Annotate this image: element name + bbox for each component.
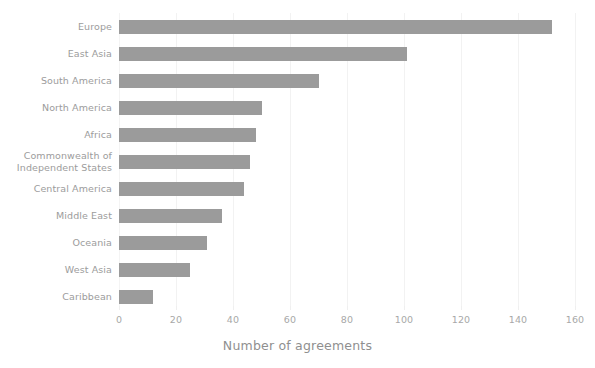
- category-label: Oceania: [0, 229, 112, 256]
- category-axis-labels: EuropeEast AsiaSouth AmericaNorth Americ…: [0, 13, 112, 310]
- x-tick-label: 0: [116, 314, 122, 325]
- x-tick-mark-40: [233, 306, 234, 310]
- category-label: Europe: [0, 13, 112, 40]
- category-label: West Asia: [0, 256, 112, 283]
- x-tick-mark-20: [176, 306, 177, 310]
- x-tick-mark-60: [290, 306, 291, 310]
- bar-chart: EuropeEast AsiaSouth AmericaNorth Americ…: [0, 0, 595, 368]
- x-tick-label: 80: [341, 314, 354, 325]
- bar-row[interactable]: [119, 121, 575, 148]
- bar-row[interactable]: [119, 229, 575, 256]
- bar[interactable]: [119, 47, 407, 61]
- bar[interactable]: [119, 155, 250, 169]
- bar-row[interactable]: [119, 175, 575, 202]
- bar-row[interactable]: [119, 67, 575, 94]
- bar[interactable]: [119, 20, 552, 34]
- bar[interactable]: [119, 128, 256, 142]
- bar[interactable]: [119, 101, 262, 115]
- x-tick-mark-100: [404, 306, 405, 310]
- bar-series: [119, 13, 575, 310]
- bar[interactable]: [119, 263, 190, 277]
- bar[interactable]: [119, 209, 222, 223]
- bar-row[interactable]: [119, 94, 575, 121]
- x-tick-mark-120: [461, 306, 462, 310]
- category-label: Commonwealth of Independent States: [0, 148, 112, 175]
- x-axis-title: Number of agreements: [0, 338, 595, 353]
- category-label: Middle East: [0, 202, 112, 229]
- x-tick-mark-80: [347, 306, 348, 310]
- x-tick-label: 140: [509, 314, 528, 325]
- bar-row[interactable]: [119, 256, 575, 283]
- x-axis: 020406080100120140160: [119, 310, 575, 332]
- bar[interactable]: [119, 182, 244, 196]
- x-tick-mark-0: [119, 306, 120, 310]
- bar-row[interactable]: [119, 40, 575, 67]
- category-label: South America: [0, 67, 112, 94]
- category-label: Caribbean: [0, 283, 112, 310]
- bar[interactable]: [119, 236, 207, 250]
- category-label: Africa: [0, 121, 112, 148]
- x-tick-label: 40: [227, 314, 240, 325]
- x-tick-label: 60: [284, 314, 297, 325]
- plot-area: [119, 13, 575, 310]
- x-tick-mark-160: [575, 306, 576, 310]
- bar-row[interactable]: [119, 148, 575, 175]
- x-tick-label: 120: [452, 314, 471, 325]
- x-tick-mark-140: [518, 306, 519, 310]
- bar-row[interactable]: [119, 202, 575, 229]
- category-label: Central America: [0, 175, 112, 202]
- bar-row[interactable]: [119, 13, 575, 40]
- category-label: North America: [0, 94, 112, 121]
- bar[interactable]: [119, 74, 319, 88]
- x-tick-label: 160: [566, 314, 585, 325]
- x-tick-label: 100: [395, 314, 414, 325]
- x-tick-label: 20: [170, 314, 183, 325]
- gridline-160: [575, 13, 576, 310]
- bar[interactable]: [119, 290, 153, 304]
- category-label: East Asia: [0, 40, 112, 67]
